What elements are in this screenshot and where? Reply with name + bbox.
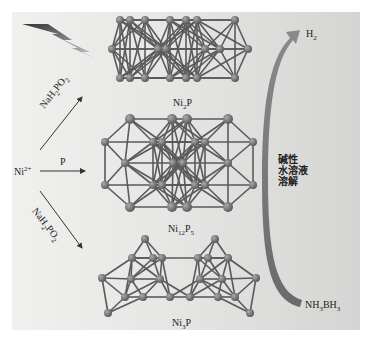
atom xyxy=(101,181,109,189)
bond xyxy=(195,119,228,142)
atom xyxy=(224,159,232,167)
atom xyxy=(141,235,149,243)
atom xyxy=(125,114,135,124)
lightning-icon xyxy=(22,24,105,63)
atom xyxy=(127,275,135,283)
atom xyxy=(186,293,194,301)
atom xyxy=(191,181,199,189)
product-h2: H2 xyxy=(306,29,317,42)
atom xyxy=(231,74,239,82)
atom xyxy=(223,114,233,124)
bond xyxy=(105,142,125,163)
atom xyxy=(158,254,166,262)
atom xyxy=(231,293,239,301)
bond xyxy=(105,119,130,142)
atom xyxy=(141,74,149,82)
condition-text: 碱性 水溶液 溶解 xyxy=(278,154,308,187)
product-label-ni2p: Ni2P xyxy=(173,98,192,111)
condition-line: 溶解 xyxy=(278,176,308,187)
atom xyxy=(179,159,187,167)
bond xyxy=(205,142,228,163)
atom xyxy=(116,16,124,24)
atom xyxy=(101,138,109,146)
nh3bh3-part: NH xyxy=(305,299,319,310)
atom xyxy=(246,309,254,317)
atom xyxy=(194,254,202,262)
crystal-ni12p5 xyxy=(101,114,257,212)
product-part: P xyxy=(186,317,192,328)
atom xyxy=(193,16,201,24)
atom xyxy=(158,181,166,189)
nh3bh3-part: BH xyxy=(323,299,337,310)
reagent-p: P xyxy=(60,157,66,167)
atom xyxy=(149,181,157,189)
atom xyxy=(223,202,233,212)
product-sub: 5 xyxy=(191,229,195,237)
atom xyxy=(156,275,164,283)
atom xyxy=(154,45,162,53)
bond xyxy=(228,119,253,142)
atom xyxy=(204,254,212,262)
atom xyxy=(162,45,170,53)
atom xyxy=(211,235,219,243)
atom xyxy=(201,138,209,146)
product-part: Ni xyxy=(172,317,182,328)
bond xyxy=(105,163,125,185)
bond xyxy=(195,185,228,207)
nh3bh3-sub: 3 xyxy=(337,305,341,313)
condition-line: 碱性 xyxy=(278,154,308,165)
crystal-ni3p xyxy=(98,235,260,317)
product-part: Ni xyxy=(168,223,178,234)
atom xyxy=(149,138,157,146)
atom xyxy=(166,293,174,301)
condition-line: 水溶液 xyxy=(278,165,308,176)
product-label-ni12p5: Ni12P5 xyxy=(168,224,194,237)
crystal-ni2p xyxy=(108,16,252,82)
atom xyxy=(249,138,257,146)
bond xyxy=(125,119,130,163)
atom xyxy=(141,16,149,24)
atom xyxy=(182,202,192,212)
diagram-artwork xyxy=(0,0,371,340)
reactant-ni2plus: Ni2+ xyxy=(14,166,31,177)
atom xyxy=(231,16,239,24)
atom xyxy=(182,16,190,24)
atom xyxy=(126,16,134,24)
product-label-ni3p: Ni3P xyxy=(172,318,191,331)
atom xyxy=(116,74,124,82)
atom xyxy=(98,274,106,282)
atom xyxy=(108,45,116,53)
atom xyxy=(201,45,209,53)
atom xyxy=(182,74,190,82)
atom xyxy=(158,138,166,146)
atom xyxy=(224,254,232,262)
atom xyxy=(104,309,112,317)
reactant-base: Ni xyxy=(14,166,24,177)
product-part: Ni xyxy=(173,97,183,108)
atom xyxy=(244,45,252,53)
atom xyxy=(201,181,209,189)
bond xyxy=(205,163,228,185)
atom xyxy=(216,45,224,53)
atom xyxy=(214,293,222,301)
atom xyxy=(149,254,157,262)
atom xyxy=(121,159,129,167)
atom xyxy=(166,74,174,82)
atom xyxy=(191,138,199,146)
atom xyxy=(166,16,174,24)
atom xyxy=(252,274,260,282)
atom xyxy=(169,159,177,167)
atom xyxy=(126,74,134,82)
bond xyxy=(222,278,256,279)
bond xyxy=(102,258,132,278)
reactant-nh3bh3: NH3BH3 xyxy=(305,300,340,313)
atom xyxy=(218,275,226,283)
atom xyxy=(128,254,136,262)
product-sub: 12 xyxy=(178,229,185,237)
atom xyxy=(193,74,201,82)
bond xyxy=(228,142,253,163)
atom xyxy=(249,181,257,189)
bond xyxy=(228,163,253,185)
product-part: P xyxy=(187,97,193,108)
bond xyxy=(102,278,131,279)
